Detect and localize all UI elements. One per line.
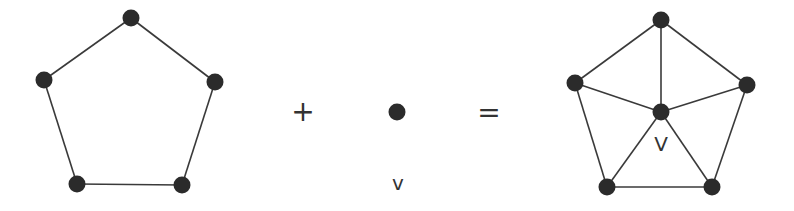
cycle-vertex-d (69, 176, 86, 193)
wheel-vertex-e (567, 75, 584, 92)
wheel-graph-w5 (567, 12, 756, 196)
cycle-edge-e-a (44, 18, 131, 80)
plus-operator: + (291, 95, 314, 128)
wheel-edge-v-c (661, 112, 712, 187)
wheel-vertex-a (653, 12, 670, 29)
wheel-vertex-d (599, 179, 616, 196)
wheel-vertex-b (739, 77, 756, 94)
graph-join-diagram: + v = V (0, 0, 794, 211)
cycle-graph-c5 (36, 10, 224, 194)
cycle-edge-a-b (131, 18, 215, 82)
cycle-vertex-b (207, 74, 224, 91)
cycle-edge-d-e (44, 80, 77, 184)
wheel-vertex-c (704, 179, 721, 196)
middle-vertex (389, 104, 406, 121)
wheel-edge-e-a (575, 20, 661, 83)
cycle-edge-c-d (77, 184, 182, 185)
cycle-edge-b-c (182, 82, 215, 185)
wheel-edge-b-c (712, 85, 747, 187)
middle-vertex-label: v (392, 171, 404, 195)
wheel-edge-v-b (661, 85, 747, 112)
cycle-vertex-a (123, 10, 140, 27)
equals-operator: = (477, 96, 500, 129)
wheel-vertex-v (653, 104, 670, 121)
wheel-edge-v-e (575, 83, 661, 112)
cycle-vertex-c (174, 177, 191, 194)
wheel-edge-a-b (661, 20, 747, 85)
hub-vertex-label: V (654, 132, 668, 156)
wheel-edge-d-e (575, 83, 607, 187)
cycle-vertex-e (36, 72, 53, 89)
wheel-edge-v-d (607, 112, 661, 187)
